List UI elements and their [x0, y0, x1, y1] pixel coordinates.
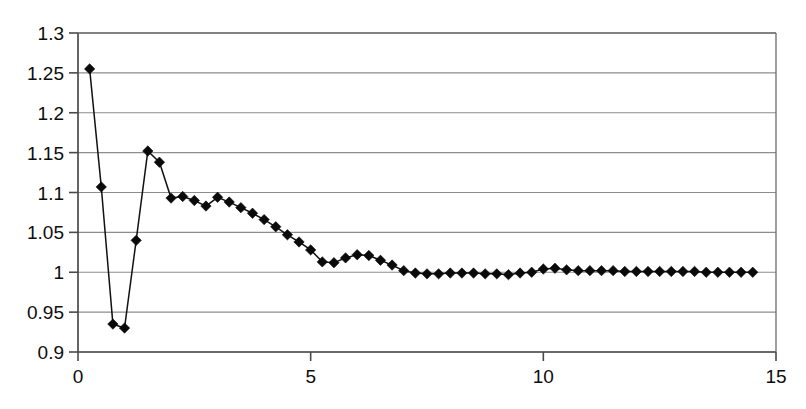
y-tick-label: 1 [53, 262, 64, 283]
y-tick-label: 1.3 [38, 23, 64, 44]
series-line-series-1 [90, 69, 753, 328]
y-tick-label: 1.1 [38, 183, 64, 204]
data-point-marker [236, 202, 246, 212]
data-point-marker [131, 235, 141, 245]
data-point-marker [480, 269, 490, 279]
data-point-marker [329, 257, 339, 267]
y-tick-label: 0.9 [38, 342, 64, 363]
data-series-group [84, 64, 758, 334]
data-point-marker [503, 269, 513, 279]
data-point-marker [108, 319, 118, 329]
data-point-marker [561, 265, 571, 275]
y-tick-label: 1.2 [38, 103, 64, 124]
data-point-marker [666, 266, 676, 276]
y-tick-label: 1.25 [27, 63, 64, 84]
data-point-marker [422, 269, 432, 279]
data-point-marker [410, 268, 420, 278]
data-point-marker [340, 253, 350, 263]
data-point-marker [631, 266, 641, 276]
data-point-marker [492, 269, 502, 279]
data-point-marker [445, 268, 455, 278]
data-point-marker [515, 268, 525, 278]
data-point-marker [282, 230, 292, 240]
data-point-marker [375, 255, 385, 265]
data-point-marker [736, 267, 746, 277]
data-point-marker [259, 214, 269, 224]
data-point-marker [224, 197, 234, 207]
data-point-marker [748, 267, 758, 277]
data-point-marker [399, 265, 409, 275]
data-point-marker [654, 266, 664, 276]
data-point-marker [364, 250, 374, 260]
data-point-marker [596, 265, 606, 275]
data-point-marker [527, 267, 537, 277]
data-point-marker [724, 267, 734, 277]
line-chart: 0.90.9511.051.11.151.21.251.3 051015 [0, 0, 806, 409]
data-point-marker [352, 250, 362, 260]
y-tick-label: 1.15 [27, 143, 64, 164]
data-point-marker [678, 266, 688, 276]
data-point-marker [433, 269, 443, 279]
data-point-marker [119, 323, 129, 333]
x-tick-label: 5 [305, 366, 316, 387]
x-axis-tick-labels: 051015 [73, 366, 787, 387]
data-point-marker [701, 267, 711, 277]
x-tick-label: 10 [533, 366, 554, 387]
x-tick-label: 15 [765, 366, 786, 387]
data-point-marker [608, 265, 618, 275]
data-point-marker [620, 266, 630, 276]
data-point-marker [643, 266, 653, 276]
y-axis-tick-labels: 0.90.9511.051.11.151.21.251.3 [27, 23, 64, 363]
data-point-marker [271, 222, 281, 232]
data-point-marker [468, 268, 478, 278]
data-point-marker [294, 237, 304, 247]
data-point-marker [96, 182, 106, 192]
data-point-marker [247, 208, 257, 218]
data-point-marker [166, 193, 176, 203]
chart-container: 0.90.9511.051.11.151.21.251.3 051015 [0, 0, 806, 409]
data-point-marker [713, 267, 723, 277]
x-tick-label: 0 [73, 366, 84, 387]
y-tick-label: 0.95 [27, 302, 64, 323]
y-tick-label: 1.05 [27, 222, 64, 243]
data-point-marker [573, 265, 583, 275]
data-point-marker [189, 195, 199, 205]
data-point-marker [689, 266, 699, 276]
data-point-marker [457, 268, 467, 278]
data-point-marker [387, 260, 397, 270]
data-point-marker [585, 265, 595, 275]
